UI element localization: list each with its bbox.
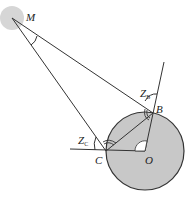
- angle-arc-m: [31, 36, 37, 45]
- label-zb-sub: B: [146, 94, 150, 100]
- label-m: M: [25, 11, 36, 23]
- label-c: C: [95, 154, 103, 166]
- geometry-diagram: M B C O ZB ZC: [0, 0, 190, 204]
- label-zb: ZB: [140, 87, 150, 100]
- label-zc: ZC: [78, 134, 88, 147]
- angle-arc-zc: [94, 137, 96, 150]
- label-b: B: [156, 103, 163, 115]
- line-m-to-b: [12, 18, 153, 113]
- label-o: O: [145, 154, 153, 166]
- line-m-to-c: [12, 18, 106, 151]
- label-zc-sub: C: [84, 141, 88, 147]
